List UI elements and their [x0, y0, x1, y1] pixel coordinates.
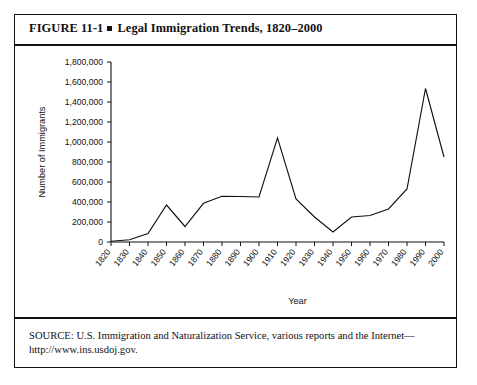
x-tick-label: 1930 [296, 247, 316, 268]
x-axis-tick-marks [111, 242, 444, 246]
figure-title: FIGURE 11-1Legal Immigration Trends, 182… [29, 21, 323, 36]
x-tick-label: 1860 [167, 247, 187, 268]
x-tick-label: 1950 [333, 247, 353, 268]
figure-title-text: Legal Immigration Trends, 1820–2000 [117, 21, 322, 35]
x-axis-title: Year [288, 296, 307, 306]
x-tick-label: 2000 [426, 247, 446, 268]
x-tick-label: 1940 [315, 247, 335, 268]
x-tick-label: 1910 [259, 247, 279, 268]
x-axis-tick-labels: 1820183018401850186018701880189019001910… [93, 247, 446, 268]
x-tick-label: 1970 [370, 247, 390, 268]
x-tick-label: 1880 [204, 247, 224, 268]
x-tick-label: 1870 [185, 247, 205, 268]
y-tick-label: 1,400,000 [65, 97, 103, 107]
y-axis-title: Number of Immigrants [37, 106, 47, 197]
x-tick-label: 1830 [111, 247, 131, 268]
x-tick-label: 1840 [130, 247, 150, 268]
y-tick-label: 400,000 [72, 197, 103, 207]
immigration-data-line [111, 89, 444, 242]
y-tick-label: 1,600,000 [65, 77, 103, 87]
y-tick-label: 600,000 [72, 177, 103, 187]
y-tick-label: 1,800,000 [65, 57, 103, 67]
source-line-1: SOURCE: U.S. Immigration and Naturalizat… [29, 330, 415, 341]
line-chart: 0200,000400,000600,000800,0001,000,0001,… [15, 46, 458, 316]
y-tick-label: 1,200,000 [65, 117, 103, 127]
source-divider [15, 317, 456, 319]
x-tick-label: 1820 [93, 247, 113, 268]
x-tick-label: 1850 [148, 247, 168, 268]
x-tick-label: 1900 [241, 247, 261, 268]
y-axis-tick-labels: 0200,000400,000600,000800,0001,000,0001,… [65, 57, 103, 247]
x-tick-label: 1890 [222, 247, 242, 268]
source-line-2: http://www.ins.usdoj.gov. [29, 343, 444, 357]
y-axis-tick-marks [107, 62, 111, 242]
y-tick-label: 800,000 [72, 157, 103, 167]
x-tick-label: 1960 [352, 247, 372, 268]
figure-label: FIGURE 11-1 [29, 21, 103, 35]
y-tick-label: 1,000,000 [65, 137, 103, 147]
source-note: SOURCE: U.S. Immigration and Naturalizat… [29, 329, 444, 357]
figure-container: FIGURE 11-1Legal Immigration Trends, 182… [14, 14, 457, 368]
figure-header: FIGURE 11-1Legal Immigration Trends, 182… [15, 15, 456, 45]
x-tick-label: 1920 [278, 247, 298, 268]
y-tick-label: 0 [98, 237, 103, 247]
y-tick-label: 200,000 [72, 217, 103, 227]
title-bullet-icon [107, 26, 112, 31]
x-tick-label: 1980 [389, 247, 409, 268]
chart-plot-area: 0200,000400,000600,000800,0001,000,0001,… [15, 46, 456, 316]
x-tick-label: 1990 [407, 247, 427, 268]
